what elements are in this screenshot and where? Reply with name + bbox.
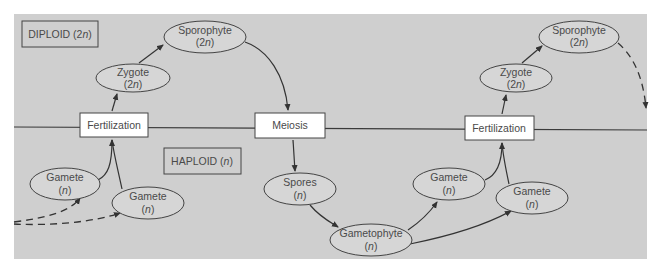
svg-text:Meiosis: Meiosis bbox=[272, 119, 308, 131]
svg-text:(2n): (2n) bbox=[196, 36, 215, 48]
stage-gamete-left-2: Gamete (n) bbox=[112, 187, 184, 219]
svg-text:(n): (n) bbox=[59, 184, 72, 196]
stage-spores: Spores (n) bbox=[264, 173, 336, 205]
stage-gamete-left-1: Gamete (n) bbox=[30, 168, 100, 200]
stage-sporophyte-right: Sporophyte (2n) bbox=[539, 21, 619, 53]
stage-zygote-right: Zygote (2n) bbox=[480, 64, 552, 92]
svg-text:Gametophyte: Gametophyte bbox=[339, 227, 402, 239]
svg-text:DIPLOID (2n): DIPLOID (2n) bbox=[28, 28, 92, 40]
stage-gamete-right-2: Gamete (n) bbox=[496, 182, 568, 214]
svg-text:(n): (n) bbox=[142, 203, 155, 215]
stage-sporophyte-left: Sporophyte (2n) bbox=[164, 21, 246, 53]
svg-text:(2n): (2n) bbox=[507, 78, 526, 90]
svg-text:Sporophyte: Sporophyte bbox=[552, 24, 606, 36]
svg-text:Fertilization: Fertilization bbox=[87, 119, 141, 131]
svg-text:(n): (n) bbox=[443, 184, 456, 196]
stage-zygote-left: Zygote (2n) bbox=[96, 64, 170, 92]
stage-gametophyte: Gametophyte (n) bbox=[330, 224, 412, 256]
svg-text:(n): (n) bbox=[294, 189, 307, 201]
svg-text:HAPLOID (n): HAPLOID (n) bbox=[171, 155, 233, 167]
stage-gamete-right-1: Gamete (n) bbox=[413, 168, 485, 200]
svg-text:Gamete: Gamete bbox=[513, 185, 551, 197]
svg-text:(n): (n) bbox=[526, 198, 539, 210]
fertilization-box-left: Fertilization bbox=[80, 113, 148, 137]
svg-text:(2n): (2n) bbox=[124, 78, 143, 90]
svg-text:Gamete: Gamete bbox=[430, 171, 468, 183]
svg-text:Gamete: Gamete bbox=[46, 171, 84, 183]
svg-text:Zygote: Zygote bbox=[117, 66, 149, 78]
svg-text:Sporophyte: Sporophyte bbox=[178, 24, 232, 36]
fertilization-box-right: Fertilization bbox=[465, 116, 534, 140]
svg-text:(2n): (2n) bbox=[570, 36, 589, 48]
svg-text:Gamete: Gamete bbox=[129, 190, 167, 202]
svg-text:(n): (n) bbox=[365, 240, 378, 252]
alternation-of-generations-diagram: DIPLOID (2n) HAPLOID (n) Fertilization M… bbox=[0, 0, 660, 271]
svg-text:Zygote: Zygote bbox=[500, 66, 532, 78]
svg-text:Spores: Spores bbox=[283, 176, 316, 188]
meiosis-box: Meiosis bbox=[255, 113, 325, 138]
svg-text:Fertilization: Fertilization bbox=[472, 122, 526, 134]
